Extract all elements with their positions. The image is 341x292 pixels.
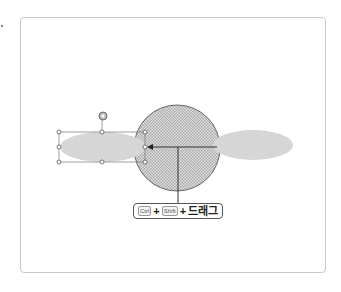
ctrl-key-icon: Ctrl [138,206,151,216]
shortcut-callout: Ctrl + Shift + 드래그 [133,203,223,219]
resize-handle-ne[interactable] [143,130,147,134]
resize-handle-nw[interactable] [57,130,61,134]
rotate-handle-icon[interactable] [99,112,107,120]
resize-handle-se[interactable] [143,160,147,164]
plus-sign: + [153,205,159,217]
resize-handle-w[interactable] [57,145,61,149]
resize-handle-e[interactable] [143,145,147,149]
resize-handle-s[interactable] [100,160,104,164]
drag-label: 드래그 [188,205,218,217]
right-ellipse-shape[interactable] [213,130,293,160]
resize-handle-n[interactable] [100,130,104,134]
shift-key-icon: Shift [162,206,178,216]
plus-sign: + [180,205,186,217]
left-ellipse-shape[interactable] [60,132,146,162]
drawing-layer [0,0,341,292]
resize-handle-sw[interactable] [57,160,61,164]
